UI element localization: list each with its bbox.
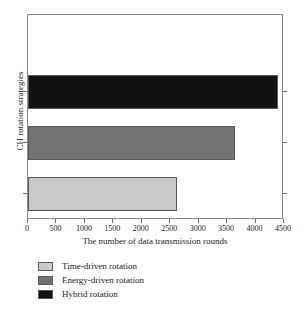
x-axis-tick xyxy=(84,219,85,223)
x-axis-tick xyxy=(226,219,227,223)
y-axis-tick xyxy=(23,193,27,194)
legend-swatch xyxy=(38,262,53,271)
chart-legend: Time-driven rotationEnergy-driven rotati… xyxy=(38,259,268,301)
plot-frame xyxy=(27,14,283,219)
legend-swatch xyxy=(38,276,53,285)
legend-swatch xyxy=(38,290,53,299)
bar-time-driven-rotation xyxy=(28,177,177,211)
bar-chart-figure: CH rotation strategies 05001000150020002… xyxy=(0,0,305,313)
y-axis-tick xyxy=(23,142,27,143)
y-axis-tick xyxy=(283,142,287,143)
legend-item: Energy-driven rotation xyxy=(38,273,268,287)
x-axis-tick-label: 4500 xyxy=(263,224,303,234)
x-axis-tick xyxy=(112,219,113,223)
x-axis-tick xyxy=(198,219,199,223)
bar-hybrid-rotation xyxy=(28,75,278,109)
legend-item: Hybrid rotation xyxy=(38,287,268,301)
bar-energy-driven-rotation xyxy=(28,126,235,160)
x-axis-tick xyxy=(169,219,170,223)
legend-item: Time-driven rotation xyxy=(38,259,268,273)
x-axis-tick xyxy=(141,219,142,223)
x-axis-tick xyxy=(283,219,284,223)
plot-area xyxy=(28,15,282,218)
legend-label: Time-driven rotation xyxy=(62,261,137,272)
y-axis-tick xyxy=(283,193,287,194)
x-axis-tick xyxy=(27,219,28,223)
legend-label: Hybrid rotation xyxy=(62,289,118,300)
x-axis-label: The number of data transmission rounds xyxy=(27,235,283,247)
legend-label: Energy-driven rotation xyxy=(62,275,144,286)
y-axis-label: CH rotation strategies xyxy=(14,31,26,191)
y-axis-tick xyxy=(283,91,287,92)
y-axis-tick xyxy=(23,91,27,92)
x-axis-tick xyxy=(255,219,256,223)
x-axis-tick xyxy=(55,219,56,223)
